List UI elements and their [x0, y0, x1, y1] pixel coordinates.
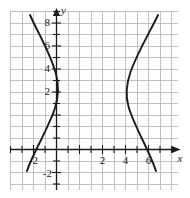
graph-figure: y x 8 6 4 2 -2 -2 2 4 6 — [0, 0, 190, 198]
y-tick-label-2: 2 — [45, 85, 51, 97]
y-tick-label-neg2: -2 — [43, 167, 52, 179]
x-tick-label-6: 6 — [146, 154, 152, 166]
x-tick-label-neg2: -2 — [29, 154, 38, 166]
y-tick-label-6: 6 — [45, 39, 51, 51]
x-tick-label-2: 2 — [100, 154, 106, 166]
y-tick-label-4: 4 — [45, 62, 51, 74]
x-axis-label: x — [177, 152, 183, 164]
coordinate-plane-svg: y x 8 6 4 2 -2 -2 2 4 6 — [0, 0, 190, 198]
y-tick-label-8: 8 — [45, 16, 51, 28]
x-tick-label-4: 4 — [123, 154, 129, 166]
y-axis-label: y — [60, 4, 66, 16]
